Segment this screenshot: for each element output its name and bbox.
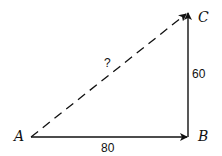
point-label-b: B: [197, 128, 208, 144]
edge-label-ac: ?: [104, 56, 111, 70]
vector-ac-dashed: [31, 14, 186, 137]
edge-label-ab: 80: [101, 141, 115, 155]
point-label-a: A: [12, 128, 24, 144]
edge-label-bc: 60: [192, 67, 206, 81]
point-label-c: C: [198, 9, 209, 25]
vector-triangle-diagram: A B C 80 60 ?: [0, 0, 222, 156]
